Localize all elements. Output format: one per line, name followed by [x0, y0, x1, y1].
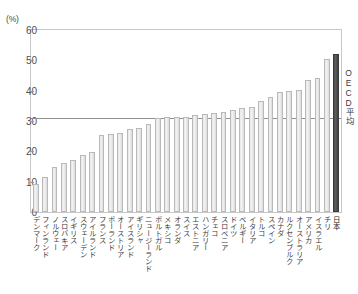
bar-slot: [202, 30, 208, 212]
x-axis-label: アイスランド: [126, 215, 134, 257]
x-axis-label: スロバキア: [60, 215, 68, 250]
bar-slot: [192, 30, 198, 212]
x-axis-label: ポルトガル: [154, 215, 162, 250]
x-axis-label: チリ: [323, 215, 331, 229]
bar: [192, 115, 198, 212]
bar: [315, 78, 321, 212]
bar-slot: [89, 30, 95, 212]
bar-slot: [286, 30, 292, 212]
bar: [89, 152, 95, 212]
x-axis-label: イスラエル: [314, 215, 322, 250]
bar: [80, 155, 86, 212]
x-axis-label: ニュージーランド: [144, 215, 152, 271]
x-axis-label: ルクセンブルク: [285, 215, 293, 264]
x-axis-label: フィンランド: [41, 215, 49, 257]
bar: [202, 114, 208, 212]
bar-slot: [315, 30, 321, 212]
bar-slot: [239, 30, 245, 212]
bar: [52, 167, 58, 212]
bar-slot: [52, 30, 58, 212]
bar: [108, 134, 114, 212]
x-axis-label: ノルウェー: [50, 215, 58, 250]
x-axis-label: チェコ: [210, 215, 218, 236]
x-axis-label: イギリス: [69, 215, 77, 243]
x-axis-label: ハンガリー: [201, 215, 209, 250]
bar-slot: [268, 30, 274, 212]
bar-slot: [211, 30, 217, 212]
bar-slot: [221, 30, 227, 212]
bar-slot: [61, 30, 67, 212]
bar-slot: [42, 30, 48, 212]
x-axis-label: ポーランド: [107, 215, 115, 250]
bar: [33, 184, 39, 212]
x-axis-label: オーストラリア: [295, 215, 303, 264]
bar: [249, 107, 255, 212]
bar-slot: [70, 30, 76, 212]
bar: [146, 124, 152, 212]
bar-slot: [80, 30, 86, 212]
bar: [305, 80, 311, 212]
bar: [258, 101, 264, 212]
bar: [155, 118, 161, 212]
oecd-comparison-bar-chart: (%) 0102030405060 OECD平均 デンマークフィンランドノルウェ…: [0, 0, 358, 294]
bar-slot: [136, 30, 142, 212]
bar-slot: [174, 30, 180, 212]
bar-slot: [164, 30, 170, 212]
bar-slot: [99, 30, 105, 212]
bar-highlight: [333, 54, 339, 212]
x-axis-label: カナダ: [276, 215, 284, 236]
bar: [296, 90, 302, 212]
bar: [61, 163, 67, 212]
x-axis-category-labels: デンマークフィンランドノルウェースロバキアイギリススウェーデンアイルランドフラン…: [31, 215, 341, 294]
x-axis-label: アイルランド: [88, 215, 96, 257]
bar: [230, 110, 236, 212]
x-axis-label: トルコ: [257, 215, 265, 236]
average-line-label: OECD平均: [344, 68, 353, 126]
bar: [221, 112, 227, 212]
x-axis-label: 日本: [332, 215, 340, 229]
bar-slot: [117, 30, 123, 212]
bar-slot: [333, 30, 339, 212]
bar-slot: [258, 30, 264, 212]
bar: [164, 117, 170, 212]
x-axis-label: エストニア: [191, 215, 199, 250]
x-axis-label: メキシコ: [163, 215, 171, 243]
bar: [183, 117, 189, 212]
bar-slot: [183, 30, 189, 212]
x-axis-label: ギリシャ: [135, 215, 143, 243]
bar-slot: [155, 30, 161, 212]
bar-slot: [230, 30, 236, 212]
bar: [286, 91, 292, 212]
x-axis-label: ベルギー: [238, 215, 246, 243]
bar: [127, 129, 133, 212]
bar-slot: [249, 30, 255, 212]
bar-slot: [277, 30, 283, 212]
bar-slot: [324, 30, 330, 212]
bar-slot: [305, 30, 311, 212]
x-axis-label: スロベニア: [220, 215, 228, 250]
x-axis-label: ドイツ: [229, 215, 237, 236]
bar: [99, 135, 105, 212]
x-axis-label: デンマーク: [32, 215, 40, 250]
bar: [42, 177, 48, 212]
bar: [174, 117, 180, 212]
x-axis-label: スウェーデン: [79, 215, 87, 257]
bars-container: [31, 30, 341, 212]
x-axis-label: イタリア: [248, 215, 256, 243]
bar: [136, 128, 142, 212]
bar-slot: [146, 30, 152, 212]
bar: [70, 160, 76, 212]
x-axis-label: スイス: [182, 215, 190, 236]
x-axis-label: オーストリア: [116, 215, 124, 257]
bar: [277, 92, 283, 212]
bar-slot: [108, 30, 114, 212]
bar: [239, 108, 245, 212]
bar-slot: [33, 30, 39, 212]
bar: [268, 97, 274, 212]
bar-slot: [296, 30, 302, 212]
x-axis-label: オランダ: [173, 215, 181, 243]
bar: [324, 59, 330, 212]
bar: [117, 133, 123, 212]
bar-slot: [127, 30, 133, 212]
bar: [211, 113, 217, 212]
